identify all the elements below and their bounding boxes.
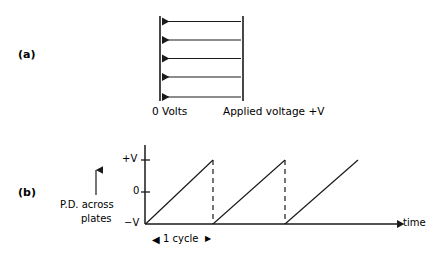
sawtooth-ramp-2 [213,160,285,224]
y-tick-label-plus-v: +V [122,154,137,164]
cycle-arrow-left-icon: ◀ [152,235,160,245]
y-tick-label-minus-v: −V [124,218,139,228]
figure-vector-layer [0,0,437,269]
panel-b-tag: (b) [18,187,36,198]
panel-a-graphics [160,16,243,101]
pd-across-label-line1: P.D. across [60,200,114,210]
y-tick-label-zero: 0 [133,186,139,196]
x-axis-time-label: time [403,218,426,228]
cycle-arrow-right-icon: ▶ [205,235,211,243]
sawtooth-ramp-1 [146,160,214,224]
pd-across-label-line2: plates [81,214,112,224]
physics-figure: (a) 0 Volts Applied voltage +V (b) P.D. … [0,0,437,269]
applied-voltage-label: Applied voltage +V [223,106,324,117]
cycle-span-label: 1 cycle [163,234,198,244]
zero-volts-label: 0 Volts [152,106,187,117]
sawtooth-ramp-3 [285,160,358,224]
panel-a-tag: (a) [18,49,35,60]
panel-b-graphics [96,145,397,240]
